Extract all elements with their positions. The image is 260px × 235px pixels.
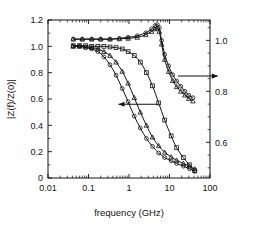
right-axis-arrow-head xyxy=(212,73,218,78)
y-tick-label-left: 0.2 xyxy=(30,147,43,157)
left-axis-arrow-head xyxy=(118,102,124,107)
figure-container: 0.010.111010000.20.40.60.81.01.20.60.81.… xyxy=(0,0,260,235)
x-tick-label: 1 xyxy=(126,183,131,193)
y-tick-label-right: 0.6 xyxy=(215,138,228,148)
y-tick-label-left: 0.8 xyxy=(30,68,43,78)
series-line-left-curve-a xyxy=(73,46,195,171)
x-tick-label: 100 xyxy=(202,183,217,193)
x-tick-label: 0.01 xyxy=(39,183,57,193)
series-line-left-curve-c xyxy=(73,46,195,171)
y-tick-label-left: 0.6 xyxy=(30,94,43,104)
x-tick-label: 10 xyxy=(164,183,174,193)
y-tick-label-left: 1.0 xyxy=(30,42,43,52)
chart-svg: 0.010.111010000.20.40.60.81.01.20.60.81.… xyxy=(0,0,260,235)
series-line-right-curve-b xyxy=(73,28,193,101)
y-axis-title: |Z(f)/Z(0)| xyxy=(5,79,16,119)
x-tick-label: 0.1 xyxy=(82,183,95,193)
y-tick-label-right: 0.8 xyxy=(215,87,228,97)
y-tick-label-left: 0.4 xyxy=(30,121,43,131)
y-tick-label-right: 1.0 xyxy=(215,36,228,46)
y-tick-label-left: 0 xyxy=(38,173,43,183)
x-axis-title: frequency (GHz) xyxy=(94,207,164,218)
series-line-left-curve-b xyxy=(73,46,195,168)
y-tick-label-left: 1.2 xyxy=(30,15,43,25)
series-layer xyxy=(71,23,197,174)
